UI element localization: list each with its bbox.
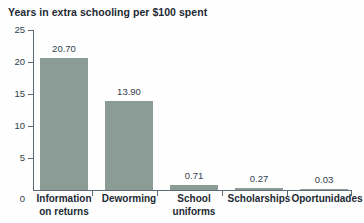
y-tick-label-20: 20: [8, 56, 25, 67]
bar-oportunidades: [300, 189, 348, 190]
category-label-scholarships: Scholarships: [226, 193, 292, 206]
y-tick-10: [28, 126, 33, 127]
bar-value-oportunidades: 0.03: [300, 174, 348, 185]
y-tick-25: [28, 30, 33, 31]
category-label-line: Oportunidades: [291, 193, 363, 206]
y-tick-label-25: 25: [8, 24, 25, 35]
category-label-line: Deworming: [99, 193, 159, 206]
category-label-school-uniforms: School uniforms: [164, 193, 224, 218]
y-tick-label-5: 5: [8, 152, 25, 163]
y-tick-20: [28, 62, 33, 63]
category-label-line: on returns: [34, 206, 94, 219]
category-label-line: Information: [34, 193, 94, 206]
bar-school-uniforms: [170, 185, 218, 190]
bar-chart: Years in extra schooling per $100 spent …: [0, 0, 364, 223]
bar-scholarships: [235, 188, 283, 190]
bar-deworming: [105, 101, 153, 190]
bar-value-deworming: 13.90: [105, 86, 153, 97]
category-label-line: Scholarships: [226, 193, 292, 206]
category-label-line: uniforms: [164, 206, 224, 219]
bar-value-school-uniforms: 0.71: [170, 170, 218, 181]
bar-information-on-returns: [40, 58, 88, 190]
category-label-line: School: [164, 193, 224, 206]
y-tick-15: [28, 94, 33, 95]
category-label-oportunidades: Oportunidades: [291, 193, 363, 206]
y-tick-label-10: 10: [8, 120, 25, 131]
y-tick-5: [28, 158, 33, 159]
category-label-information-on-returns: Information on returns: [34, 193, 94, 218]
category-label-deworming: Deworming: [99, 193, 159, 206]
y-axis-line: [33, 30, 34, 191]
bar-value-scholarships: 0.27: [235, 173, 283, 184]
y-tick-label-0: 0: [8, 193, 25, 204]
bar-value-information-on-returns: 20.70: [40, 43, 88, 54]
x-axis-line: [33, 190, 352, 191]
y-tick-label-15: 15: [8, 88, 25, 99]
plot-area: 25 20 15 10 5 0 20.70 13.90 0.71 0.27 0.…: [0, 0, 364, 223]
